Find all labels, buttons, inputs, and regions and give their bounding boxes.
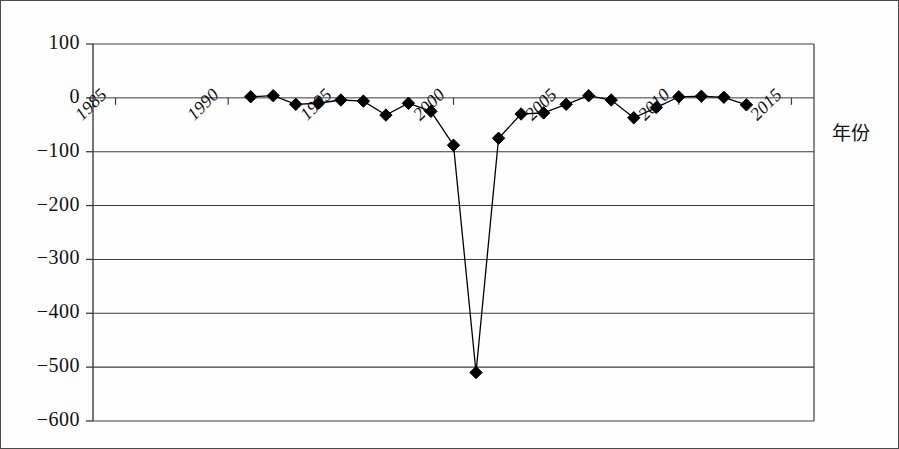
data-series-markers — [245, 90, 753, 379]
data-point — [380, 109, 392, 121]
data-point — [695, 90, 707, 102]
y-tick-label: −400 — [37, 300, 80, 323]
data-point — [718, 91, 730, 103]
y-tick-label: −300 — [37, 246, 80, 269]
data-point — [582, 90, 594, 102]
y-tick-label: −600 — [37, 408, 80, 431]
data-point — [335, 94, 347, 106]
y-tick-label: −500 — [37, 354, 80, 377]
data-point — [245, 91, 257, 103]
y-tick-label: 100 — [49, 31, 81, 54]
data-point — [447, 139, 459, 151]
data-point — [357, 95, 369, 107]
chart-plot-area — [1, 1, 899, 449]
y-tick-label: −100 — [37, 139, 80, 162]
data-point — [560, 98, 572, 110]
y-tick-label: −200 — [37, 193, 80, 216]
data-point — [673, 91, 685, 103]
chart-figure: 1000−100−200−300−400−500−600 19851990199… — [0, 0, 899, 449]
data-point — [470, 366, 482, 378]
x-axis-title: 年份 — [832, 118, 870, 145]
data-point — [605, 94, 617, 106]
data-point — [267, 90, 279, 102]
